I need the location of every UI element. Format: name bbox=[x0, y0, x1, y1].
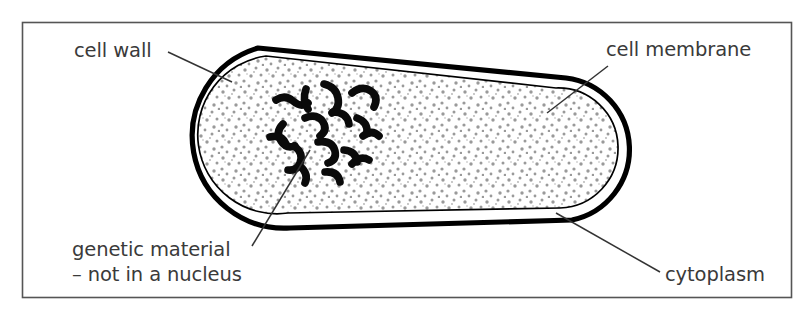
label-genetic-material-line1: genetic material bbox=[72, 238, 231, 261]
label-genetic-material-line2: – not in a nucleus bbox=[72, 263, 242, 286]
label-cell-wall: cell wall bbox=[74, 39, 152, 62]
label-cytoplasm: cytoplasm bbox=[665, 263, 765, 286]
label-cell-membrane: cell membrane bbox=[606, 38, 751, 61]
diagram-page: cell wall cell membrane genetic material… bbox=[0, 0, 810, 316]
bacterial-cell-diagram: cell wall cell membrane genetic material… bbox=[0, 0, 810, 316]
